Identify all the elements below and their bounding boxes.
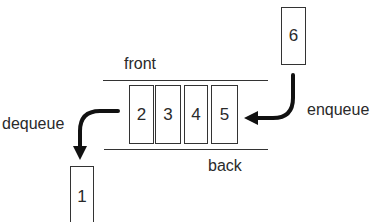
enqueue-arrow-icon <box>244 75 293 125</box>
dequeue-arrow-icon <box>73 111 118 160</box>
arrows-layer <box>0 0 374 222</box>
